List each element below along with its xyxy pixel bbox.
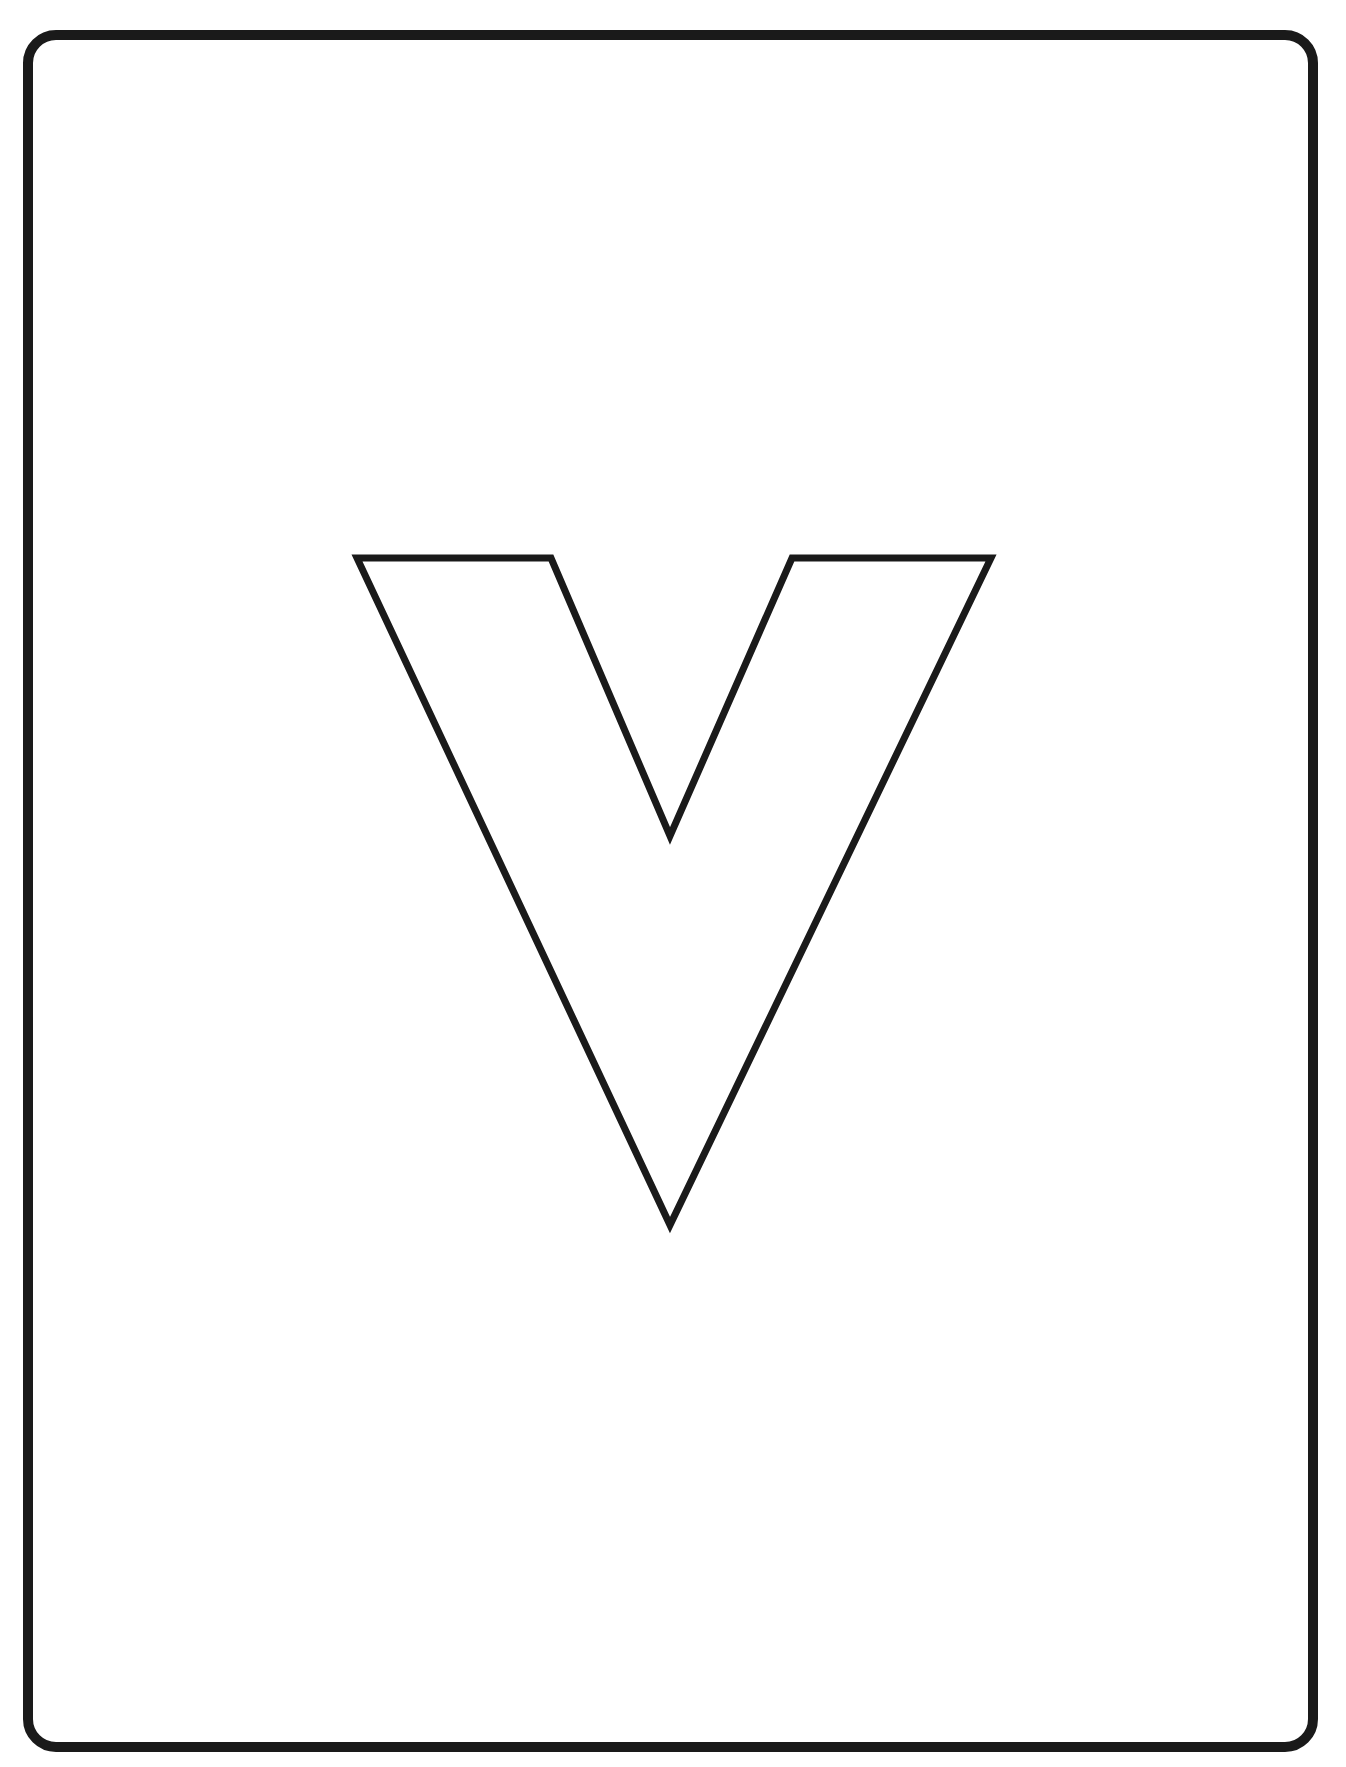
- coloring-page: V: [0, 0, 1346, 1767]
- coloring-page-canvas: V: [0, 0, 1346, 1767]
